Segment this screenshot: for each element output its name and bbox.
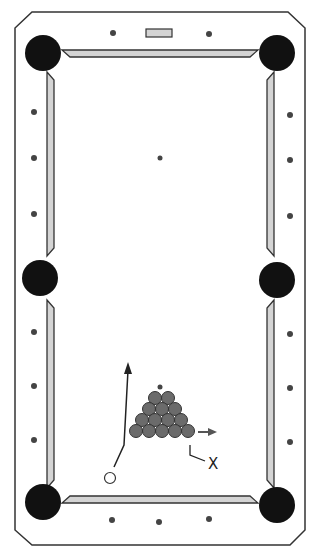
diamond — [287, 157, 293, 163]
cushion-right-upper — [267, 72, 274, 256]
pocket-top-left — [25, 35, 61, 71]
cushion-top — [62, 50, 258, 57]
diamond — [31, 329, 37, 335]
pocket-middle-left — [22, 260, 58, 296]
diamond — [287, 213, 293, 219]
diamond — [31, 155, 37, 161]
pocket-bottom-left — [25, 484, 61, 520]
diamond — [31, 383, 37, 389]
diamond — [110, 30, 116, 36]
diamond — [287, 112, 293, 118]
diamond — [287, 385, 293, 391]
diamond — [31, 437, 37, 443]
diamond — [109, 517, 115, 523]
diamond — [287, 331, 293, 337]
cushion-left-lower — [47, 300, 54, 488]
diamond — [31, 211, 37, 217]
diamond — [31, 109, 37, 115]
head-spot — [158, 156, 163, 161]
cushion-right-lower — [267, 300, 274, 488]
diamond — [206, 31, 212, 37]
diamond — [156, 519, 162, 525]
label-x: X — [208, 455, 218, 473]
pocket-middle-right — [259, 262, 295, 298]
foot-spot — [158, 385, 163, 390]
cue-ball — [105, 473, 116, 484]
diamond — [206, 516, 212, 522]
pool-table-diagram: X — [0, 0, 321, 552]
cushion-bottom — [62, 496, 258, 503]
name-plate — [146, 29, 172, 37]
pocket-bottom-right — [259, 487, 295, 523]
pocket-top-right — [259, 35, 295, 71]
cushion-left-upper — [47, 72, 54, 256]
diamond — [287, 439, 293, 445]
